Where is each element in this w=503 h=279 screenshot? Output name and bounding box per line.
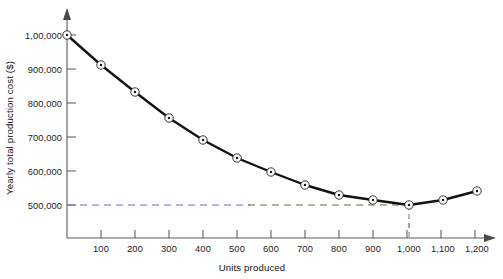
data-point-markers xyxy=(63,31,481,209)
data-point xyxy=(301,181,309,189)
data-point xyxy=(63,31,71,39)
x-tick-label: 1,000 xyxy=(397,244,421,254)
chart-canvas: 500,000 600,000 700,000 800,000 900,000 … xyxy=(0,0,503,279)
production-cost-chart: 500,000 600,000 700,000 800,000 900,000 … xyxy=(0,0,503,279)
y-tick-label: 800,000 xyxy=(28,99,62,109)
x-axis-arrow-icon xyxy=(484,234,496,242)
data-point xyxy=(439,196,447,204)
y-axis-ticks xyxy=(67,35,76,205)
data-point xyxy=(473,187,481,195)
x-tick-label: 200 xyxy=(127,244,143,254)
x-tick-label: 500 xyxy=(229,244,245,254)
data-point xyxy=(199,136,207,144)
y-tick-label: 1,00,000 xyxy=(25,31,62,41)
y-tick-label: 600,000 xyxy=(28,167,62,177)
data-point xyxy=(369,196,377,204)
x-tick-label: 900 xyxy=(365,244,381,254)
x-tick-label: 1,100 xyxy=(431,244,455,254)
data-point xyxy=(405,201,413,209)
x-tick-label: 1,200 xyxy=(465,244,489,254)
x-axis-title: Units produced xyxy=(219,262,286,273)
x-axis-ticks xyxy=(101,230,475,238)
data-point xyxy=(233,154,241,162)
data-point xyxy=(131,88,139,96)
y-tick-label: 900,000 xyxy=(28,65,62,75)
data-point xyxy=(97,61,105,69)
x-tick-label: 300 xyxy=(161,244,177,254)
x-tick-label: 800 xyxy=(331,244,347,254)
y-axis-arrow-icon xyxy=(63,8,71,20)
data-point xyxy=(267,168,275,176)
y-axis-title: Yearly total production cost ($) xyxy=(4,61,15,195)
x-axis-tick-labels: 100 200 300 400 500 600 700 800 900 1,00… xyxy=(93,244,489,254)
x-tick-label: 400 xyxy=(195,244,211,254)
y-tick-label: 500,000 xyxy=(28,201,62,211)
y-axis-tick-labels: 500,000 600,000 700,000 800,000 900,000 … xyxy=(25,31,62,211)
x-tick-label: 100 xyxy=(93,244,109,254)
data-point xyxy=(165,114,173,122)
data-point xyxy=(335,191,343,199)
x-tick-label: 700 xyxy=(297,244,313,254)
cost-curve xyxy=(67,35,477,205)
x-tick-label: 600 xyxy=(263,244,279,254)
y-tick-label: 700,000 xyxy=(28,133,62,143)
x-axis xyxy=(67,234,496,242)
y-axis xyxy=(63,8,71,238)
